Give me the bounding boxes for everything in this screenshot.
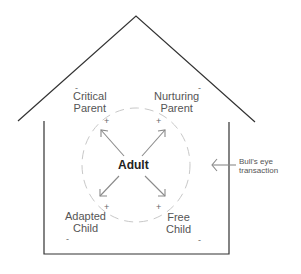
- adult-label: Adult: [118, 158, 149, 172]
- adapted-child-minus: -: [66, 235, 69, 244]
- house-outline: [0, 0, 301, 274]
- free-child-plus: +: [156, 203, 161, 212]
- house-walls: [44, 121, 229, 254]
- nurturing-parent-plus: +: [156, 117, 161, 126]
- free-child-label: Free Child: [166, 211, 191, 235]
- arrow-to-nurturing-parent: [142, 130, 165, 156]
- nurturing-parent-label: Nurturing Parent: [154, 90, 199, 114]
- arrow-to-free-child: [145, 176, 165, 196]
- adapted-child-label: Adapted Child: [65, 210, 106, 234]
- critical-parent-label: Critical Parent: [73, 90, 107, 114]
- arrow-to-adapted-child: [100, 176, 119, 196]
- ego-state-house-diagram: - Critical Parent + - Nurturing Parent +…: [0, 0, 301, 274]
- free-child-minus: -: [198, 236, 201, 245]
- arrow-to-critical-parent: [101, 130, 124, 156]
- roof-line: [18, 16, 255, 122]
- critical-parent-plus: +: [104, 117, 109, 126]
- bulls-eye-annotation: Bull's eye transaction: [239, 157, 278, 175]
